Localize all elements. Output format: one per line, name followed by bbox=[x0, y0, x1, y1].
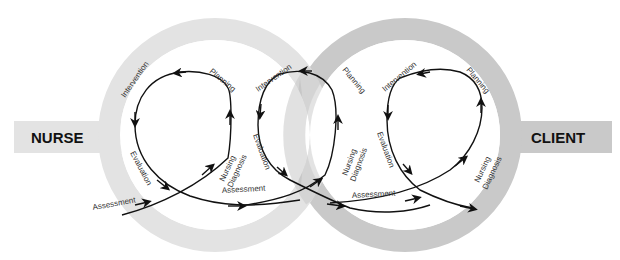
nurse-loop-arrow bbox=[176, 72, 186, 73]
client-label: CLIENT bbox=[531, 129, 585, 146]
shared-loop-arrow bbox=[260, 104, 261, 116]
nursing-process-diagram: NURSE CLIENT Intervention Planning Evalu… bbox=[0, 0, 620, 260]
nurse-label: NURSE bbox=[31, 129, 84, 146]
